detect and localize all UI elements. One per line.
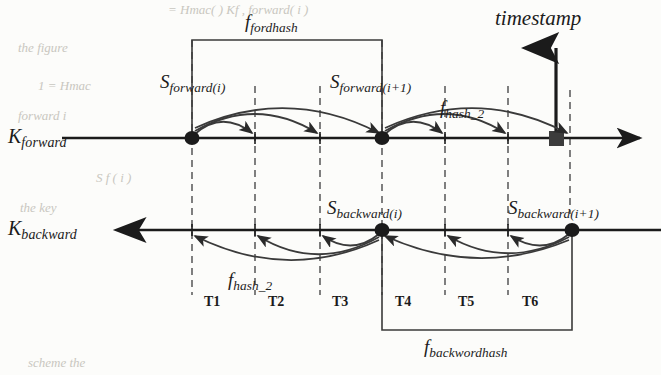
hash-label-forward: fhash_2 bbox=[440, 98, 484, 117]
axis-label-k-backward: Kbackward bbox=[8, 218, 77, 238]
arcs-forward-group-1 bbox=[195, 108, 379, 134]
node-s-backward-i1-dot bbox=[565, 223, 580, 237]
axis-label-k-forward: Kforward bbox=[8, 126, 67, 146]
arcs-backward-group-2 bbox=[385, 234, 569, 258]
s-forward-i-sub: forward(i) bbox=[170, 80, 226, 95]
k-forward-sub: forward bbox=[21, 135, 66, 150]
s-backward-i-main: S bbox=[327, 197, 337, 218]
timestamp-square-marker bbox=[549, 131, 564, 146]
node-label-s-forward-i1: Sforward(i+1) bbox=[330, 72, 411, 91]
bracket-label-fordhash: ffordhash bbox=[245, 12, 298, 31]
bracket-label-backwordhash: fbackwordhash bbox=[424, 337, 508, 356]
node-s-forward-i-dot bbox=[185, 131, 200, 145]
hash2-forward-sub: hash_2 bbox=[445, 106, 484, 121]
arcs-backward-group-1 bbox=[195, 234, 379, 260]
k-forward-main: K bbox=[8, 125, 21, 147]
node-s-backward-i-dot bbox=[375, 223, 390, 237]
s-forward-i1-main: S bbox=[330, 71, 340, 92]
diagram-vector-layer bbox=[0, 0, 661, 375]
node-label-s-forward-i: Sforward(i) bbox=[160, 72, 225, 91]
diagram-canvas: = Hmac( ) Kf , forward( i )the figure1 =… bbox=[0, 0, 661, 375]
fordhash-sub: fordhash bbox=[250, 20, 298, 35]
interval-label-t2: T2 bbox=[268, 295, 284, 309]
timestamp-label: timestamp bbox=[495, 8, 581, 29]
k-backward-sub: backward bbox=[21, 227, 77, 242]
k-backward-main: K bbox=[8, 217, 21, 239]
interval-label-t6: T6 bbox=[522, 295, 538, 309]
hash2-backward-sub: hash_2 bbox=[233, 278, 272, 293]
interval-label-t5: T5 bbox=[458, 295, 474, 309]
node-s-forward-i1-dot bbox=[375, 131, 390, 145]
s-backward-i1-main: S bbox=[508, 197, 518, 218]
node-label-s-backward-i1: Sbackward(i+1) bbox=[508, 198, 599, 217]
s-backward-i-sub: backward(i) bbox=[337, 206, 403, 221]
interval-label-t3: T3 bbox=[332, 295, 348, 309]
interval-label-t4: T4 bbox=[395, 295, 411, 309]
hash-label-backward: fhash_2 bbox=[228, 270, 272, 289]
bracket-backwordhash bbox=[382, 236, 572, 330]
node-label-s-backward-i: Sbackward(i) bbox=[327, 198, 402, 217]
interval-label-t1: T1 bbox=[204, 295, 220, 309]
backwordhash-sub: backwordhash bbox=[429, 345, 507, 360]
s-forward-i-main: S bbox=[160, 71, 170, 92]
s-forward-i1-sub: forward(i+1) bbox=[340, 80, 412, 95]
s-backward-i1-sub: backward(i+1) bbox=[518, 206, 599, 221]
